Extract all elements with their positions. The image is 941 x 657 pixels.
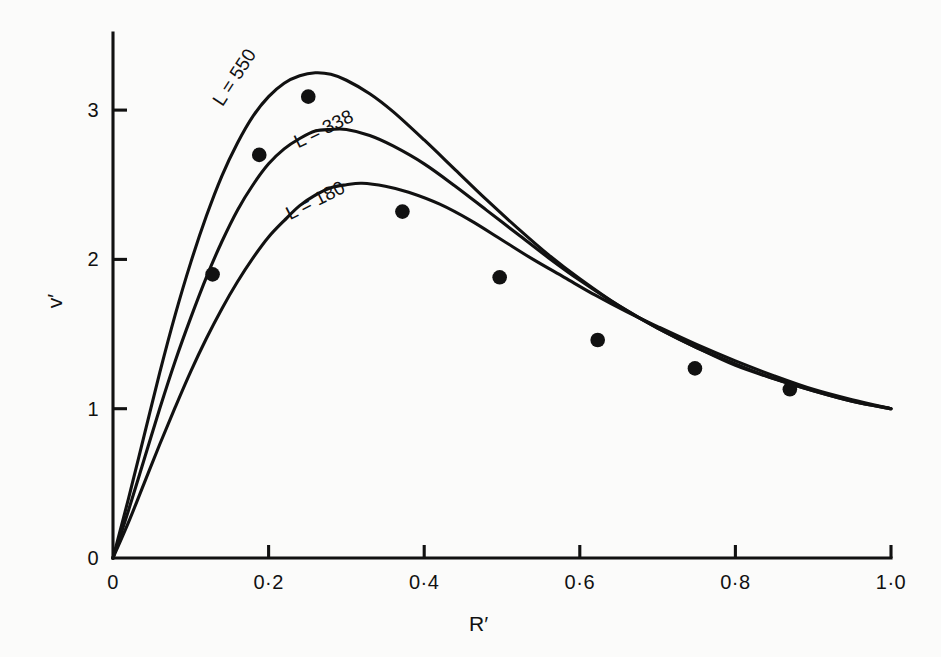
curve-series-group (113, 73, 891, 558)
y-tick-label: 3 (87, 99, 99, 122)
y-tick-label: 1 (87, 397, 99, 420)
scatter-point (492, 270, 507, 285)
x-tick-label: 0·6 (565, 571, 595, 594)
curve-series-2 (113, 129, 891, 558)
x-tick-label: 1·0 (876, 571, 906, 594)
scatter-point (590, 333, 605, 348)
y-tick-label: 0 (87, 547, 99, 570)
x-tick-label: 0·4 (409, 571, 439, 594)
scatter-point (205, 267, 220, 282)
figure-container: 00·20·40·60·81·0 0123 L = 550L = 338L = … (0, 0, 941, 657)
scatter-point (688, 361, 703, 376)
scatter-point (301, 89, 316, 104)
curve-series-3 (113, 183, 891, 558)
chart-plot-area (0, 0, 941, 657)
y-axis-title: v′ (43, 294, 67, 308)
x-tick-label: 0·8 (720, 571, 750, 594)
scatter-point (395, 204, 410, 219)
x-tick-label: 0·2 (253, 571, 283, 594)
curve-series-1 (113, 73, 891, 558)
axis-ticks (113, 110, 891, 558)
x-tick-label: 0 (107, 571, 119, 594)
scatter-point (783, 382, 798, 397)
x-axis-title: R′ (469, 612, 488, 636)
scatter-point (252, 148, 267, 163)
y-tick-label: 2 (87, 248, 99, 271)
